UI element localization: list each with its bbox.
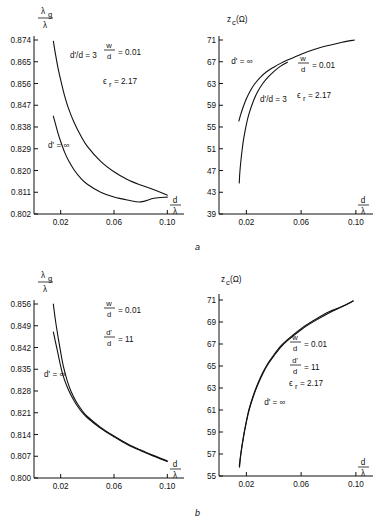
- x-tick-label: 0.02: [53, 482, 69, 491]
- curve-annotation-label: d' = ∞: [231, 57, 252, 66]
- y-tick-label: 0.842: [11, 344, 32, 353]
- y-tick-label: 0.838: [11, 123, 32, 132]
- x-tick-group: 0.020.060.10: [53, 474, 176, 491]
- y-tick-label: 57: [207, 450, 217, 459]
- y-axis-title-denominator: λ: [43, 21, 48, 30]
- param-eps-symbol: ϵ: [297, 91, 301, 100]
- param-eps-subscript: r: [109, 80, 112, 89]
- y-axis-title-main: z: [221, 275, 225, 284]
- param-w-denominator: d: [293, 344, 297, 353]
- x-tick-label: 0.02: [238, 480, 254, 489]
- param-dp-value: = 11: [118, 335, 134, 344]
- y-axis-title-denominator: λ: [43, 285, 48, 294]
- y-axis-title-unit: (Ω): [236, 15, 248, 24]
- y-axis-title-main: z: [227, 15, 231, 24]
- param-eps-value: = 2.17: [300, 379, 323, 388]
- y-tick-label: 0.865: [11, 58, 32, 67]
- y-tick-label: 0.856: [11, 80, 32, 89]
- y-tick-label: 63: [207, 384, 217, 393]
- x-tick-label: 0.06: [106, 218, 122, 227]
- param-w-over-d: w d = 0.01: [290, 333, 327, 353]
- param-w-numerator: w: [105, 299, 112, 308]
- param-w-over-d: w d = 0.01: [104, 41, 141, 61]
- data-curve: [53, 116, 167, 202]
- param-w-denominator: d: [107, 310, 111, 319]
- annotation-group: d' = ∞: [44, 370, 65, 379]
- y-tick-label: 0.820: [11, 167, 32, 176]
- curve-annotation-label: d'/d = 3: [70, 51, 97, 60]
- y-tick-label: 61: [207, 406, 217, 415]
- y-tick-label: 0.800: [11, 474, 32, 483]
- curve-annotation-label: d' = ∞: [48, 141, 69, 150]
- data-curve: [53, 41, 167, 195]
- param-dp-numerator: d': [106, 328, 112, 337]
- x-tick-label: 0.06: [293, 480, 309, 489]
- x-tick-label: 0.10: [348, 218, 364, 227]
- param-w-numerator: w: [105, 41, 112, 50]
- y-tick-label: 51: [207, 145, 217, 154]
- x-tick-label: 0.10: [348, 480, 364, 489]
- figure-root: λ g λ 0.8020.8110.8200.8290.8380.8470.85…: [0, 0, 383, 528]
- y-tick-label: 59: [207, 428, 217, 437]
- y-tick-group: 394347515559636771: [207, 36, 223, 219]
- y-tick-label: 67: [207, 58, 217, 67]
- param-w-value: = 0.01: [118, 306, 141, 315]
- y-tick-label: 55: [207, 472, 217, 481]
- param-eps-symbol: ϵ: [103, 77, 107, 86]
- y-axis-title-a-left: λ g λ: [38, 7, 53, 30]
- param-dp-numerator: d': [292, 356, 298, 365]
- y-tick-label: 59: [207, 101, 217, 110]
- param-eps-symbol: ϵ: [289, 379, 293, 388]
- param-eps-value: = 2.17: [114, 77, 137, 86]
- x-tick-label: 0.06: [293, 218, 309, 227]
- chart-panel-b-left: λ g λ 0.8000.8070.8140.8210.8280.8350.84…: [0, 264, 192, 528]
- y-tick-label: 55: [207, 123, 217, 132]
- x-tick-label: 0.06: [106, 482, 122, 491]
- y-tick-label: 0.814: [11, 431, 32, 440]
- caption-a: a: [195, 242, 200, 252]
- param-w-value: = 0.01: [312, 61, 335, 70]
- x-axis-title-denominator: λ: [173, 207, 178, 216]
- x-axis-title-denominator: λ: [361, 207, 366, 216]
- x-axis-title-numerator: d: [173, 196, 178, 205]
- data-curve: [239, 62, 287, 183]
- y-tick-label: 0.828: [11, 387, 32, 396]
- y-tick-label: 65: [207, 362, 217, 371]
- param-w-value: = 0.01: [304, 340, 327, 349]
- x-axis-title-b-left: d λ: [170, 460, 181, 480]
- param-eps-value: = 2.17: [308, 91, 331, 100]
- curve-annotation-label: d' = ∞: [264, 398, 285, 407]
- x-axis-title-numerator: d: [361, 196, 366, 205]
- param-w-over-d: w d = 0.01: [104, 299, 141, 319]
- x-tick-group: 0.020.060.10: [53, 210, 176, 227]
- x-axis-title-numerator: d: [173, 460, 178, 469]
- curve-group: [239, 40, 355, 183]
- y-tick-label: 0.807: [11, 452, 32, 461]
- param-dprime-over-d: d' d = 11: [290, 356, 320, 376]
- y-tick-label: 0.835: [11, 365, 32, 374]
- param-w-over-d: w d = 0.01: [298, 54, 335, 74]
- y-tick-label: 0.874: [11, 36, 32, 45]
- y-axis-title-b-left: λ g λ: [38, 271, 53, 294]
- curve-group: [53, 41, 167, 202]
- y-tick-label: 67: [207, 340, 217, 349]
- y-axis-title-numerator: λ: [41, 271, 46, 280]
- y-tick-label: 69: [207, 318, 217, 327]
- x-axis-title-b-right: d λ: [358, 458, 369, 478]
- annotation-group: d'/d = 3d' = ∞: [48, 51, 97, 149]
- annotation-group: d' = ∞: [264, 398, 285, 407]
- y-tick-label: 63: [207, 80, 217, 89]
- data-curve: [53, 332, 167, 462]
- y-tick-label: 0.811: [11, 188, 31, 197]
- chart-svg-a-right: z c (Ω) 394347515559636771 0.020.060.10 …: [191, 0, 383, 264]
- param-eps-subscript: r: [295, 382, 298, 391]
- x-axis-title-a-left: d λ: [170, 196, 181, 216]
- param-w-denominator: d: [107, 52, 111, 61]
- param-dp-value: = 11: [304, 363, 320, 372]
- param-dp-denominator: d: [293, 367, 297, 376]
- y-axis-title-b-right: z c (Ω): [221, 275, 242, 287]
- x-tick-group: 0.020.060.10: [238, 472, 364, 489]
- curve-annotation-label: d' = ∞: [44, 370, 65, 379]
- y-axis-title-a-right: z c (Ω): [227, 15, 248, 27]
- chart-panel-a-right: z c (Ω) 394347515559636771 0.020.060.10 …: [191, 0, 383, 264]
